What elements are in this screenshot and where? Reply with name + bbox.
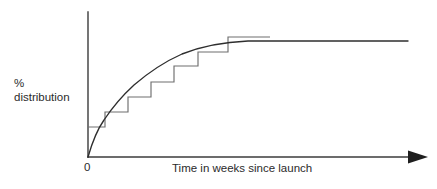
x-axis-label: Time in weeks since launch — [172, 162, 312, 176]
distribution-curve-figure: % distribution Time in weeks since launc… — [0, 0, 437, 189]
smooth-distribution-curve-path — [88, 41, 408, 157]
y-axis-label-line-1: % — [14, 77, 24, 89]
step-function-path — [88, 37, 270, 127]
y-axis-label-line-2: distribution — [14, 91, 70, 105]
y-axis-label: % distribution — [14, 77, 70, 104]
origin-tick-label: 0 — [84, 161, 90, 175]
x-axis-arrow-icon — [408, 151, 428, 164]
